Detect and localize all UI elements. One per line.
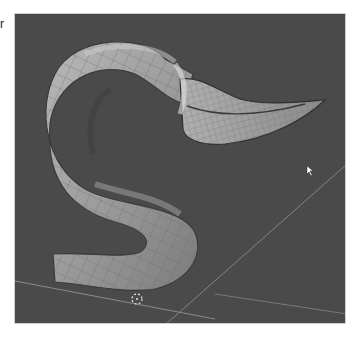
horn-tip[interactable]: [175, 64, 325, 144]
cropped-text-fragment: r: [0, 17, 4, 31]
mesh-shadow: [90, 89, 110, 154]
3d-viewport[interactable]: [14, 13, 346, 324]
mouse-pointer-icon: [307, 166, 313, 176]
wireframe-overlay: [46, 42, 198, 291]
grid-axis-line: [215, 294, 346, 314]
viewport-canvas[interactable]: [15, 14, 346, 324]
mesh-object[interactable]: [46, 42, 198, 291]
3d-cursor-icon: [132, 294, 142, 304]
horn-wireframe: [180, 79, 325, 145]
